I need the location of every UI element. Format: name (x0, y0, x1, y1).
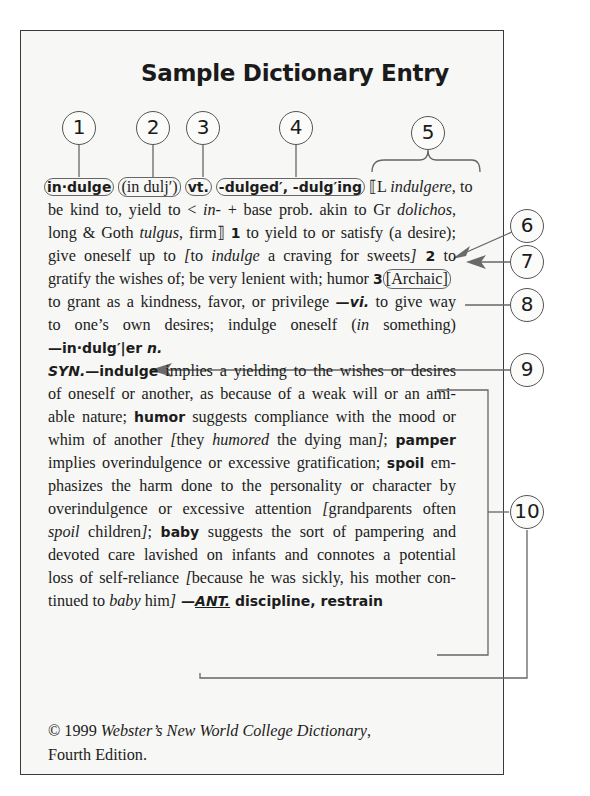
antonym-label: ANT. (195, 593, 230, 609)
text: to (435, 247, 456, 265)
callout-5: 5 (411, 116, 445, 150)
antonyms: discipline, restrain (230, 593, 383, 609)
syn-line-10: loss of self-reliance [because he was si… (48, 567, 456, 589)
part-of-speech-vi: —vi. (336, 294, 369, 310)
part-of-speech: vt. (185, 178, 212, 196)
callout-9: 9 (510, 353, 544, 387)
syn-line-1: SYN.—indulge implies a yielding to the w… (48, 360, 456, 382)
text: suggests compliance with the mood or (185, 408, 456, 426)
pronunciation: (in dulj′) (118, 177, 180, 197)
text: in (357, 316, 370, 334)
text: phasizes the harm done to the personalit… (48, 477, 456, 495)
entry-line-4: give oneself up to [to indulge a craving… (48, 245, 456, 267)
text: overindulgence or excessive attention (48, 500, 322, 518)
syn-line-2: of oneself or another, as because of a w… (48, 383, 456, 405)
syn-line-5: implies overindulgence or excessive grat… (48, 452, 456, 474)
entry-line-3: long & Goth tulgus, firm⟧ 1 to yield to … (48, 222, 456, 244)
callout-6: 6 (510, 209, 544, 243)
etymology-latin: indulgere (390, 178, 451, 196)
text: of oneself or another, as because of a w… (48, 385, 456, 403)
text: — (176, 593, 195, 609)
text: the dying man (269, 431, 377, 449)
text: him (141, 592, 170, 610)
text: give oneself up to (48, 247, 184, 265)
text: grandparents often (329, 500, 456, 518)
text: they (177, 431, 213, 449)
text: to grant as a kindness, favor, or privil… (48, 293, 336, 311)
text: gratify the wishes of; be very lenient w… (48, 270, 373, 288)
page-title: Sample Dictionary Entry (0, 60, 590, 86)
syn-label: SYN. (48, 363, 85, 379)
text: pamper (396, 432, 456, 448)
text: devoted care lavished on infants and con… (48, 546, 456, 564)
syn-line-9: devoted care lavished on infants and con… (48, 544, 456, 566)
syn-line-3: able nature; humor suggests compliance w… (48, 406, 456, 428)
text: to give way (369, 293, 456, 311)
entry-line-1: in·dulge (in dulj′) vt. -dulged′, -dulg′… (44, 176, 458, 198)
text: —indulge (85, 363, 158, 379)
syn-line-8: spoil children]; baby suggests the sort … (48, 521, 456, 543)
sense-number-3: 3 (373, 271, 383, 287)
text: ; (383, 431, 395, 449)
run-on-pos: n. (147, 340, 162, 356)
text: to one’s own desires; indulge oneself ( (48, 316, 357, 334)
edition-line: Fourth Edition. (48, 746, 147, 765)
text: indulge (211, 247, 260, 265)
text: baby (109, 592, 140, 610)
headword: in·dulge (44, 178, 114, 196)
callout-7: 7 (510, 245, 544, 279)
sense-number-1: 1 (231, 225, 241, 241)
source-title: Webster’s New World College Dictionary (101, 722, 367, 740)
entry-line-6: to grant as a kindness, favor, or privil… (48, 291, 456, 313)
callout-4: 4 (279, 111, 313, 145)
text: spoil (387, 455, 425, 471)
entry-line-8: —in·dulg′|er n. (48, 337, 456, 359)
text: , firm⟧ (179, 224, 231, 242)
text: baby (161, 524, 200, 540)
entry-line-7: to one’s own desires; indulge oneself (i… (48, 314, 456, 336)
text: implies a yielding to the wishes or desi… (158, 362, 456, 380)
syn-line-7: overindulgence or excessive attention [g… (48, 498, 456, 520)
text: humor (134, 409, 185, 425)
text: in- (203, 201, 221, 219)
text: able nature; (48, 408, 134, 426)
text: be kind to, yield to < (48, 201, 203, 219)
syn-line-6: phasizes the harm done to the personalit… (48, 475, 456, 497)
syn-line-4: whim of another [they humored the dying … (48, 429, 456, 451)
text: to yield to or satisfy (a desire); (240, 224, 456, 242)
text: loss of self-reliance (48, 569, 185, 587)
sense-number-2: 2 (416, 248, 435, 264)
copyright-line: © 1999 Webster’s New World College Dicti… (48, 722, 371, 741)
text: whim of another (48, 431, 170, 449)
text: to (190, 247, 211, 265)
callout-1: 1 (62, 111, 96, 145)
callout-3: 3 (186, 111, 220, 145)
text: long & Goth (48, 224, 139, 242)
text: tulgus (139, 224, 179, 242)
text: tinued to (48, 592, 109, 610)
text: dolichos (397, 201, 452, 219)
entry-line-5: gratify the wishes of; be very lenient w… (48, 268, 456, 290)
syn-line-11: tinued to baby him] —ANT. discipline, re… (48, 590, 456, 612)
etymology-open: ⟦L (369, 178, 390, 196)
text: + base prob. akin to Gr (221, 201, 397, 219)
text: children (79, 523, 141, 541)
text: spoil (48, 523, 79, 541)
copyright: © 1999 (48, 722, 101, 740)
text: because he was sickly, his mother con- (192, 569, 456, 587)
callout-8: 8 (510, 288, 544, 322)
text: ; (147, 523, 160, 541)
callout-10: 10 (510, 495, 544, 529)
text: implies overindulgence or excessive grat… (48, 454, 387, 472)
text: , (452, 201, 456, 219)
callout-2: 2 (136, 111, 170, 145)
inflected-forms: -dulged′, -dulg′ing (216, 178, 365, 196)
text: em- (424, 454, 456, 472)
entry-line-2: be kind to, yield to < in- + base prob. … (48, 199, 456, 221)
text: a craving for sweets (260, 247, 410, 265)
etymology-text: , to (452, 178, 473, 196)
text: humored (212, 431, 269, 449)
text: something) (369, 316, 456, 334)
text: suggests the sort of pampering and (199, 523, 456, 541)
text: , (367, 722, 371, 740)
